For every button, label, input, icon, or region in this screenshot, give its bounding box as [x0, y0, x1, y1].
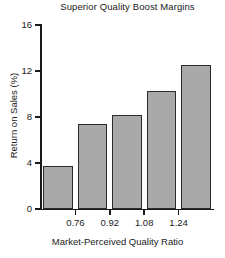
bar-chart-figure: Superior Quality Boost Margins Return on…: [0, 0, 225, 258]
bar: [78, 124, 107, 209]
bar: [112, 115, 141, 209]
x-tick-mark: [178, 209, 180, 215]
plot-area: [41, 25, 213, 209]
bar: [147, 91, 176, 209]
y-tick-label: 12: [0, 66, 32, 76]
x-tick-label: 1.24: [159, 218, 199, 228]
x-tick-mark: [109, 209, 111, 215]
bar: [181, 65, 210, 209]
chart-title: Superior Quality Boost Margins: [40, 1, 215, 12]
y-tick-label: 16: [0, 20, 32, 30]
y-tick-label: 0: [0, 204, 32, 214]
x-tick-mark: [143, 209, 145, 215]
x-axis-title: Market-Perceived Quality Ratio: [20, 236, 215, 247]
bar: [43, 166, 72, 209]
x-tick-mark: [75, 209, 77, 215]
y-tick-label: 4: [0, 158, 32, 168]
y-tick-label: 8: [0, 112, 32, 122]
